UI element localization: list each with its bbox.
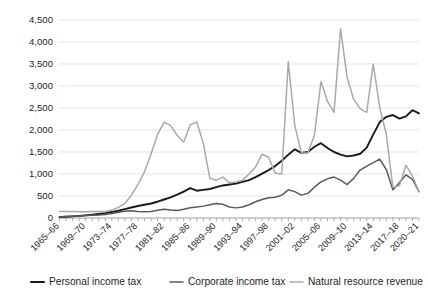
y-axis-tick-label: 1,500 [29,146,53,157]
legend-label: Corporate income tax [188,276,285,287]
legend-label: Natural resource revenue [308,276,423,287]
y-axis-tick-label: 4,000 [29,36,53,47]
legend-label: Personal income tax [49,276,141,287]
y-axis-labels-group: 05001,0001,5002,0002,5003,0003,5004,0004… [29,14,53,223]
series-line-corporate-income-tax [60,159,420,217]
series-line-natural-resource-revenue [60,29,420,212]
x-axis-labels-group: 1965–661969–701973–741977–781981–821985–… [29,221,421,253]
y-axis-tick-label: 3,000 [29,80,53,91]
y-axis-tick-label: 2,500 [29,102,53,113]
y-axis-tick-label: 3,500 [29,58,53,69]
y-axis-tick-label: 2,000 [29,124,53,135]
y-axis-tick-label: 500 [37,190,53,201]
legend-group: Personal income taxCorporate income taxN… [31,276,423,287]
y-axis-tick-label: 4,500 [29,14,53,25]
gridlines-group [60,20,420,196]
revenue-line-chart: 05001,0001,5002,0002,5003,0003,5004,0004… [0,0,428,301]
chart-canvas: 05001,0001,5002,0002,5003,0003,5004,0004… [0,0,428,301]
data-series-group [60,29,420,217]
x-axis-ticks-group [60,218,420,221]
y-axis-tick-label: 1,000 [29,168,53,179]
series-line-personal-income-tax [60,110,420,217]
